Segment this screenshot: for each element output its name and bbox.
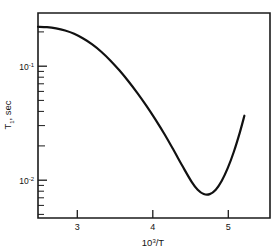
x-axis-title: 103/T: [142, 237, 165, 248]
x-axis-major-ticks: [77, 210, 228, 218]
chart-figure: 10-1 10-2 3 4 5 103/T T1, sec: [0, 0, 280, 252]
y-axis-title: T1, sec: [2, 100, 15, 129]
y-tick-mantissa-2: 10: [19, 176, 29, 186]
x-tick-label-3: 3: [75, 222, 80, 232]
y-tick-mantissa-1: 10: [19, 62, 29, 72]
x-tick-label-5: 5: [226, 222, 231, 232]
y-axis-minor-ticks: [38, 32, 45, 215]
data-curve-t1: [38, 27, 244, 195]
y-tick-label-1e-2: 10-2: [19, 176, 34, 186]
x-axis-title-suffix: /T: [156, 237, 165, 248]
y-axis-title-suffix: , sec: [2, 100, 13, 120]
x-axis-title-mantissa: 10: [142, 237, 153, 248]
plot-svg: 10-1 10-2 3 4 5 103/T T1, sec: [0, 0, 280, 252]
y-tick-label-1e-1: 10-1: [19, 62, 34, 72]
y-tick-exponent-1: -1: [29, 62, 35, 68]
x-tick-label-4: 4: [150, 222, 155, 232]
y-tick-exponent-2: -2: [29, 176, 35, 182]
y-axis-major-ticks: [38, 66, 47, 180]
